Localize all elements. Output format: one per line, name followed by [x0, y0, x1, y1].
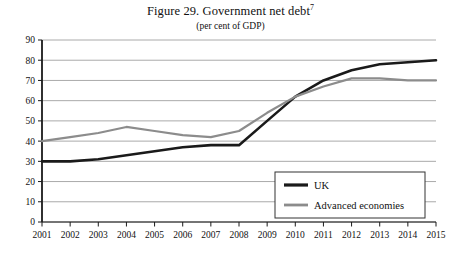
x-tick-label: 2007: [201, 230, 220, 240]
x-tick-label: 2015: [427, 230, 446, 240]
y-tick-label: 40: [26, 137, 36, 147]
x-tick-label: 2014: [398, 230, 417, 240]
x-tick-label: 2005: [145, 230, 164, 240]
data-series-group: [42, 60, 436, 161]
x-tick-label: 2003: [89, 230, 108, 240]
y-axis-tick-labels: 0102030405060708090: [26, 35, 36, 227]
y-tick-label: 50: [26, 116, 36, 126]
y-tick-label: 80: [26, 56, 36, 66]
y-tick-label: 70: [26, 76, 36, 86]
series-line-uk: [42, 60, 436, 161]
x-tick-marks-group: [42, 222, 436, 227]
x-tick-label: 2010: [286, 230, 305, 240]
y-tick-label: 20: [26, 177, 36, 187]
x-axis-tick-labels: 2001200220032004200520062007200820092010…: [33, 230, 446, 240]
y-tick-label: 60: [26, 96, 36, 106]
x-tick-label: 2002: [61, 230, 80, 240]
series-line-advanced-economies: [42, 78, 436, 141]
line-chart: 0102030405060708090 20012002200320042005…: [0, 0, 461, 253]
y-tick-label: 90: [26, 35, 36, 45]
x-tick-label: 2008: [230, 230, 249, 240]
legend-box: [275, 172, 425, 218]
figure-container: Figure 29. Government net debt7 (per cen…: [0, 0, 461, 253]
chart-legend: UKAdvanced economies: [275, 172, 425, 218]
x-tick-label: 2009: [258, 230, 277, 240]
x-tick-label: 2006: [173, 230, 192, 240]
y-tick-label: 30: [26, 157, 36, 167]
x-tick-label: 2004: [117, 230, 136, 240]
legend-label: UK: [314, 180, 330, 191]
x-tick-label: 2011: [314, 230, 333, 240]
x-tick-label: 2013: [370, 230, 389, 240]
y-tick-label: 10: [26, 197, 36, 207]
y-tick-label: 0: [30, 217, 35, 227]
x-tick-label: 2001: [33, 230, 52, 240]
legend-label: Advanced economies: [314, 200, 404, 211]
x-tick-label: 2012: [342, 230, 361, 240]
